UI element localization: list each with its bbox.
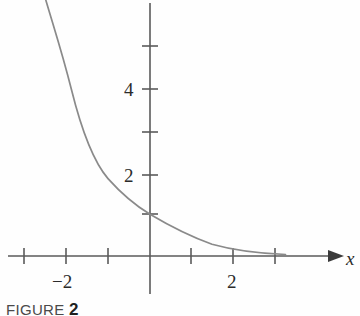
figure-container: −2 2 2 4 x FIGURE 2 bbox=[0, 0, 360, 316]
figure-caption-number: 2 bbox=[69, 300, 79, 316]
x-axis-arrow-icon bbox=[328, 250, 344, 262]
graph-plot-area bbox=[0, 0, 360, 316]
y-axis-label-4: 4 bbox=[124, 80, 134, 99]
y-axis-label-2: 2 bbox=[124, 166, 134, 185]
x-axis-label-neg2: −2 bbox=[52, 272, 72, 291]
figure-caption-prefix: FIGURE bbox=[6, 301, 64, 316]
exponential-decay-curve bbox=[46, 0, 286, 255]
x-axis-label-pos2: 2 bbox=[227, 272, 237, 291]
figure-caption: FIGURE 2 bbox=[6, 300, 79, 316]
x-axis-name-label: x bbox=[346, 249, 354, 268]
